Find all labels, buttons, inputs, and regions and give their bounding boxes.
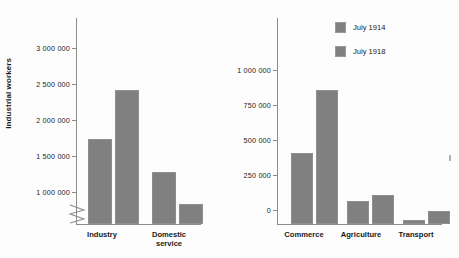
right-y-tick — [273, 210, 277, 211]
right-y-tick-label: 250 000 — [244, 171, 271, 180]
bar-group-industry — [88, 90, 139, 224]
bar-domestic-service-july-1914[interactable] — [152, 172, 176, 224]
category-label-domestic-service: Domestic service — [140, 230, 198, 249]
bar-industry-july-1914[interactable] — [88, 139, 112, 224]
bar-group-transport — [403, 211, 450, 224]
bar-commerce-july-1914[interactable] — [291, 153, 313, 224]
left-y-tick — [72, 84, 76, 85]
left-chart-panel: Industrial workers 3 000 000 2 500 000 2… — [0, 0, 215, 258]
right-y-tick-label: 500 000 — [244, 136, 271, 145]
legend-swatch-icon — [335, 46, 346, 57]
bar-agriculture-july-1918[interactable] — [372, 195, 394, 224]
bar-chart-figure: Industrial workers 3 000 000 2 500 000 2… — [0, 0, 459, 258]
legend-item-july-1914[interactable]: July 1914 — [335, 22, 386, 33]
right-y-tick-label: 750 000 — [244, 101, 271, 110]
left-y-tick-label: 1 000 000 — [36, 188, 70, 197]
legend-swatch-icon — [335, 22, 346, 33]
left-y-tick-label: 1 500 000 — [36, 152, 70, 161]
left-y-tick-label: 2 000 000 — [36, 116, 70, 125]
category-label-agriculture: Agriculture — [333, 230, 389, 239]
right-y-tick — [273, 105, 277, 106]
right-y-tick — [273, 70, 277, 71]
right-y-tick-label: 0 — [267, 206, 271, 215]
bar-group-domestic-service — [152, 172, 203, 224]
left-y-tick — [72, 156, 76, 157]
bar-transport-july-1914[interactable] — [403, 220, 425, 224]
left-y-tick-label: 3 000 000 — [36, 44, 70, 53]
right-x-axis-line — [277, 224, 442, 225]
bar-industry-july-1918[interactable] — [115, 90, 139, 224]
axis-break-icon — [68, 203, 86, 225]
left-y-tick — [72, 48, 76, 49]
scan-artifact — [449, 155, 451, 161]
category-label-commerce: Commerce — [277, 230, 331, 239]
y-axis-title: Industrial workers — [4, 58, 13, 129]
left-y-tick-label: 2 500 000 — [36, 80, 70, 89]
bar-agriculture-july-1914[interactable] — [347, 201, 369, 224]
legend-label: July 1914 — [353, 23, 386, 32]
left-y-tick — [72, 192, 76, 193]
legend-item-july-1918[interactable]: July 1918 — [335, 46, 386, 57]
left-y-tick — [72, 120, 76, 121]
right-y-tick — [273, 140, 277, 141]
right-y-tick — [273, 175, 277, 176]
left-x-axis-line — [76, 224, 201, 225]
chart-legend: July 1914 July 1918 — [335, 22, 386, 70]
bar-group-commerce — [291, 90, 338, 224]
bar-commerce-july-1918[interactable] — [316, 90, 338, 224]
left-y-axis-line — [76, 18, 77, 225]
bar-group-agriculture — [347, 195, 394, 224]
right-y-axis-line — [277, 18, 278, 225]
right-y-tick-label: 1 000 000 — [237, 66, 271, 75]
bar-domestic-service-july-1918[interactable] — [179, 204, 203, 224]
legend-label: July 1918 — [353, 47, 386, 56]
left-plot-area: 3 000 000 2 500 000 2 000 000 1 500 000 … — [76, 18, 201, 225]
category-label-industry: Industry — [76, 230, 128, 239]
category-label-transport: Transport — [389, 230, 443, 239]
bar-transport-july-1918[interactable] — [428, 211, 450, 224]
